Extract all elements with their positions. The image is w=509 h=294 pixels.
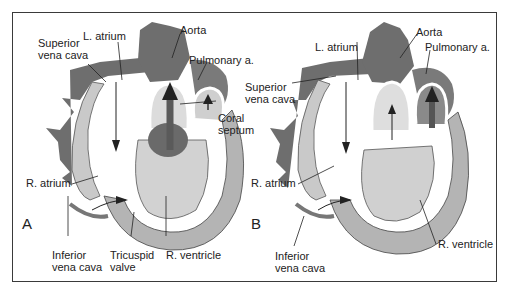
label-tricuspid-valve-a: Tricuspid valve — [110, 249, 154, 273]
label-r-atrium-b: R. atrium — [251, 177, 296, 189]
label-r-ventricle-a: R. ventricle — [166, 249, 221, 261]
label-superior-vena-cava-a: Superior vena cava — [38, 37, 88, 61]
label-r-ventricle-b: R. ventricle — [438, 238, 493, 250]
label-inferior-vena-cava-b: Inferior vena cava — [275, 250, 325, 274]
label-aorta-b: Aorta — [416, 26, 442, 38]
label-inferior-vena-cava-a: Inferior vena cava — [52, 249, 102, 273]
label-aorta-a: Aorta — [180, 24, 206, 36]
label-pulmonary-a-a: Pulmonary a. — [189, 54, 254, 66]
label-superior-vena-cava-b: Superior vena cava — [245, 81, 295, 105]
label-coral-septum-a: Coral septum — [218, 112, 254, 136]
label-r-atrium-a: R. atrium — [26, 177, 71, 189]
label-l-atrium-b: L. atrium — [315, 41, 358, 53]
panel-letter-a: A — [22, 215, 32, 232]
panel-b-heart — [270, 22, 469, 254]
label-l-atrium-a: L. atrium — [83, 30, 126, 42]
label-pulmonary-a-b: Pulmonary a. — [425, 41, 490, 53]
panel-letter-b: B — [251, 215, 261, 232]
